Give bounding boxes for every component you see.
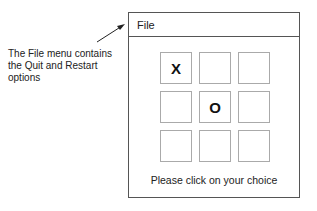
file-menu[interactable]: File xyxy=(137,19,155,31)
board-cell-4[interactable]: O xyxy=(199,91,231,123)
board-cell-1[interactable] xyxy=(199,52,231,84)
annotation-line-3: options xyxy=(8,72,128,84)
file-menu-annotation: The File menu contains the Quit and Rest… xyxy=(8,48,128,84)
tic-tac-toe-window: File X O Please click on your choice xyxy=(128,12,300,198)
board-cell-2[interactable] xyxy=(238,52,270,84)
board-cell-8[interactable] xyxy=(238,130,270,162)
board-cell-7[interactable] xyxy=(199,130,231,162)
game-board: X O xyxy=(160,52,270,162)
board-cell-6[interactable] xyxy=(160,130,192,162)
board-cell-0[interactable]: X xyxy=(160,52,192,84)
annotation-line-2: the Quit and Restart xyxy=(8,60,128,72)
menu-bar: File xyxy=(129,13,299,37)
board-cell-5[interactable] xyxy=(238,91,270,123)
status-message: Please click on your choice xyxy=(129,174,299,186)
annotation-line-1: The File menu contains xyxy=(8,48,128,60)
board-cell-3[interactable] xyxy=(160,91,192,123)
